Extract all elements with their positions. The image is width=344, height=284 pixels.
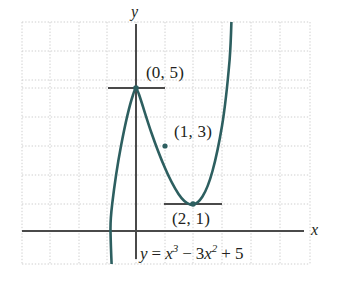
point-2-1 (190, 201, 196, 207)
equation-term2-base: x (204, 244, 212, 263)
cubic-curve (110, 22, 231, 264)
graph-figure: (0, 5) (1, 3) (2, 1) y x y=x3−3x2+5 (0, 0, 344, 284)
equation-term2-coefficient: 3 (196, 244, 205, 263)
equation-equals: = (148, 244, 166, 263)
label-point-0-5: (0, 5) (146, 64, 184, 81)
equation-term3: 5 (235, 244, 244, 263)
grid-lines (22, 22, 310, 264)
equation-term1-base: x (165, 244, 173, 263)
label-point-2-1: (2, 1) (172, 210, 210, 227)
point-0-5 (133, 85, 139, 91)
y-axis-label: y (131, 4, 138, 20)
x-axis-label: x (311, 222, 318, 238)
axis-lines (22, 24, 304, 259)
equation-lhs: y (140, 244, 148, 263)
equation-caption: y=x3−3x2+5 (140, 243, 243, 262)
equation-operator2: + (217, 244, 235, 263)
point-1-3 (162, 143, 167, 148)
label-point-1-3: (1, 3) (174, 123, 212, 140)
equation-operator1: − (178, 244, 196, 263)
